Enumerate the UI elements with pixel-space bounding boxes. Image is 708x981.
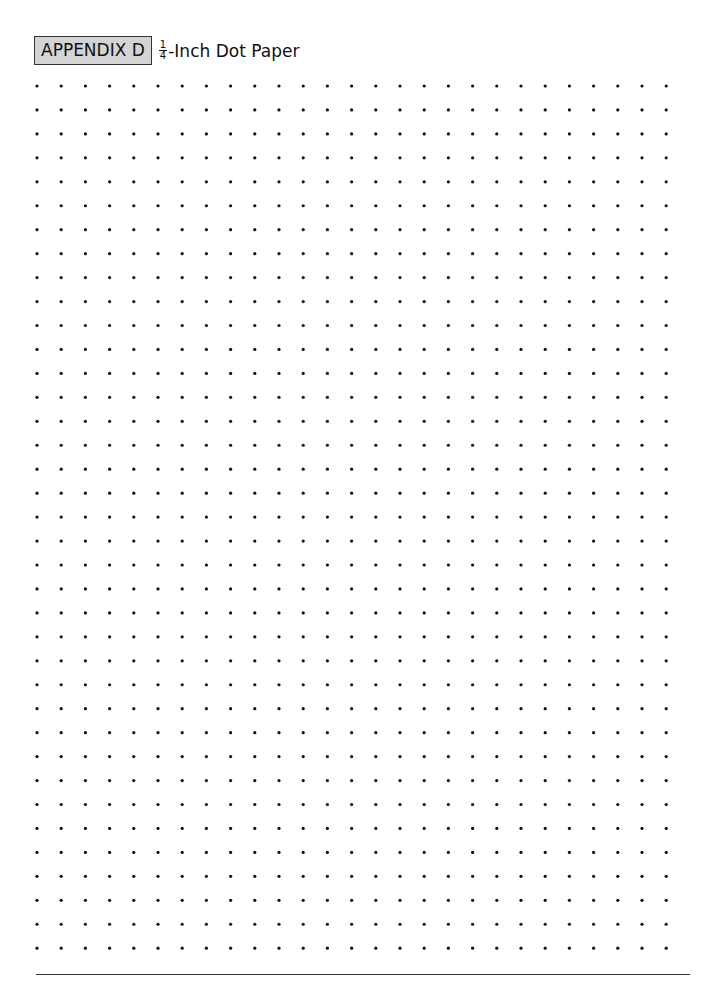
grid-dot <box>132 803 135 806</box>
grid-dot <box>302 923 305 926</box>
grid-dot <box>374 420 377 423</box>
grid-dot <box>253 468 256 471</box>
grid-dot <box>181 396 184 399</box>
grid-dot <box>84 707 87 710</box>
grid-dot <box>447 252 450 255</box>
grid-dot <box>302 180 305 183</box>
grid-dot <box>229 348 232 351</box>
grid-dot <box>592 468 595 471</box>
grid-dot <box>302 875 305 878</box>
grid-dot <box>35 324 38 327</box>
grid-dot <box>229 947 232 950</box>
grid-dot <box>277 444 280 447</box>
grid-dot <box>108 516 111 519</box>
grid-dot <box>108 731 111 734</box>
grid-dot <box>84 156 87 159</box>
grid-dot <box>519 444 522 447</box>
grid-dot <box>84 779 87 782</box>
grid-dot <box>253 444 256 447</box>
grid-dot <box>616 587 619 590</box>
grid-dot <box>229 755 232 758</box>
grid-dot <box>60 899 63 902</box>
grid-dot <box>84 755 87 758</box>
grid-dot <box>350 803 353 806</box>
grid-dot <box>326 132 329 135</box>
grid-dot <box>326 947 329 950</box>
grid-dot <box>253 827 256 830</box>
grid-dot <box>544 539 547 542</box>
grid-dot <box>423 516 426 519</box>
grid-dot <box>616 755 619 758</box>
grid-dot <box>447 444 450 447</box>
grid-dot <box>326 587 329 590</box>
grid-dot <box>108 156 111 159</box>
grid-dot <box>374 252 377 255</box>
grid-dot <box>398 324 401 327</box>
grid-dot <box>326 84 329 87</box>
grid-dot <box>326 563 329 566</box>
grid-dot <box>568 587 571 590</box>
grid-dot <box>326 468 329 471</box>
grid-dot <box>132 851 135 854</box>
grid-dot <box>568 516 571 519</box>
grid-dot <box>84 683 87 686</box>
grid-dot <box>229 396 232 399</box>
grid-dot <box>132 324 135 327</box>
grid-dot <box>253 731 256 734</box>
grid-dot <box>544 492 547 495</box>
grid-dot <box>84 108 87 111</box>
grid-dot <box>84 659 87 662</box>
grid-dot <box>205 707 208 710</box>
grid-dot <box>326 204 329 207</box>
grid-dot <box>181 300 184 303</box>
grid-dot <box>592 731 595 734</box>
grid-dot <box>60 348 63 351</box>
grid-dot <box>640 707 643 710</box>
grid-dot <box>665 803 668 806</box>
grid-dot <box>544 396 547 399</box>
grid-dot <box>156 875 159 878</box>
grid-dot <box>350 204 353 207</box>
grid-dot <box>132 204 135 207</box>
grid-dot <box>568 947 571 950</box>
grid-dot <box>35 228 38 231</box>
grid-dot <box>84 611 87 614</box>
grid-dot <box>640 156 643 159</box>
grid-dot <box>35 300 38 303</box>
grid-dot <box>665 611 668 614</box>
grid-dot <box>471 803 474 806</box>
grid-dot <box>423 420 426 423</box>
grid-dot <box>592 851 595 854</box>
grid-dot <box>374 108 377 111</box>
grid-dot <box>471 84 474 87</box>
grid-dot <box>35 563 38 566</box>
grid-dot <box>592 827 595 830</box>
grid-dot <box>35 180 38 183</box>
grid-dot <box>544 108 547 111</box>
grid-dot <box>108 563 111 566</box>
grid-dot <box>665 923 668 926</box>
grid-dot <box>277 156 280 159</box>
grid-dot <box>302 468 305 471</box>
grid-dot <box>519 108 522 111</box>
grid-dot <box>423 492 426 495</box>
grid-dot <box>544 228 547 231</box>
grid-dot <box>423 348 426 351</box>
grid-dot <box>350 851 353 854</box>
grid-dot <box>495 827 498 830</box>
grid-dot <box>35 539 38 542</box>
grid-dot <box>447 180 450 183</box>
grid-dot <box>205 468 208 471</box>
grid-dot <box>350 611 353 614</box>
grid-dot <box>84 803 87 806</box>
grid-dot <box>471 348 474 351</box>
grid-dot <box>108 228 111 231</box>
grid-dot <box>398 587 401 590</box>
grid-dot <box>253 539 256 542</box>
grid-dot <box>350 108 353 111</box>
grid-dot <box>640 683 643 686</box>
grid-dot <box>616 539 619 542</box>
grid-dot <box>302 779 305 782</box>
grid-dot <box>60 276 63 279</box>
grid-dot <box>156 300 159 303</box>
